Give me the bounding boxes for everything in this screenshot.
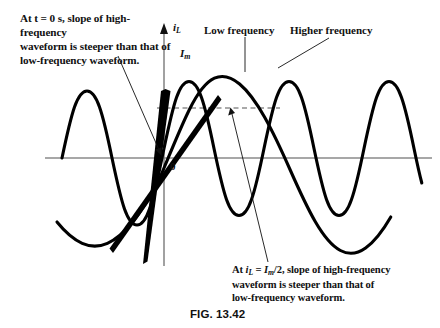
leader-top-note xyxy=(118,56,159,150)
label-vertical-axis-sub: L xyxy=(176,26,181,35)
label-origin: 0 xyxy=(170,160,176,174)
note-bottom-line-1: At iL = Im/2, slope of high-frequency xyxy=(232,263,412,278)
leader-bottom-note xyxy=(232,114,268,262)
label-peak-amplitude-sub: m xyxy=(184,52,190,61)
label-higher-frequency: Higher frequency xyxy=(290,24,400,38)
label-vertical-axis: iL xyxy=(173,21,181,36)
leader-higher-frequency xyxy=(278,38,329,68)
note-bottom-right: At iL = Im/2, slope of high-frequency wa… xyxy=(232,263,412,304)
note-bottom-line-3: low-frequency waveform. xyxy=(232,291,412,304)
note-top-line-2: waveform is steeper than that of xyxy=(20,40,172,54)
low-frequency-curve xyxy=(57,76,391,253)
note-top-line-3: low-frequency waveform. xyxy=(20,54,172,68)
figure-caption: FIG. 13.42 xyxy=(190,307,245,321)
leader-bottom-note-arrowhead xyxy=(228,108,235,116)
label-peak-amplitude: Im xyxy=(180,47,190,62)
note-bottom-line-2: waveform is steeper than that of xyxy=(232,278,412,291)
note-top-left: At t = 0 s, slope of high-frequency wave… xyxy=(20,12,172,68)
label-low-frequency: Low frequency xyxy=(204,24,294,38)
note-top-line-1: At t = 0 s, slope of high-frequency xyxy=(20,12,172,40)
